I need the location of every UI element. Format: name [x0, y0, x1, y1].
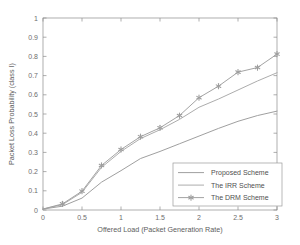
x-tick-label: 0 — [41, 214, 45, 221]
y-tick-label: 1 — [34, 15, 38, 22]
y-tick-label: 0.3 — [28, 149, 38, 156]
y-tick-label: 0.4 — [28, 130, 38, 137]
chart-figure: 00.511.522.53 00.10.20.30.40.50.60.70.80… — [0, 0, 300, 245]
chart-legend[interactable]: Proposed SchemeThe IRR SchemeThe DRM Sch… — [173, 163, 282, 206]
packet-loss-probability-line-chart: 00.511.522.53 00.10.20.30.40.50.60.70.80… — [0, 0, 300, 245]
y-axis-title: Packet Loss Probability (class I) — [7, 63, 16, 165]
y-tick-label: 0.8 — [28, 53, 38, 60]
x-tick-label: 2.5 — [233, 214, 243, 221]
y-tick-label: 0.1 — [28, 187, 38, 194]
x-tick-label: 2 — [197, 214, 201, 221]
legend-label: Proposed Scheme — [211, 169, 269, 177]
x-tick-label: 3 — [275, 214, 279, 221]
y-tick-label: 0.6 — [28, 91, 38, 98]
y-tick-label: 0.7 — [28, 72, 38, 79]
x-tick-label: 1 — [119, 214, 123, 221]
y-tick-label: 0.2 — [28, 168, 38, 175]
legend-label: The IRR Scheme — [211, 182, 265, 189]
y-tick-label: 0.5 — [28, 111, 38, 118]
x-tick-label: 0.5 — [77, 214, 87, 221]
y-tick-label: 0 — [34, 207, 38, 214]
x-tick-label: 1.5 — [155, 214, 165, 221]
y-tick-label: 0.9 — [28, 34, 38, 41]
x-axis-title: Offered Load (Packet Generation Rate) — [97, 225, 222, 234]
legend-label: The DRM Scheme — [211, 194, 269, 201]
